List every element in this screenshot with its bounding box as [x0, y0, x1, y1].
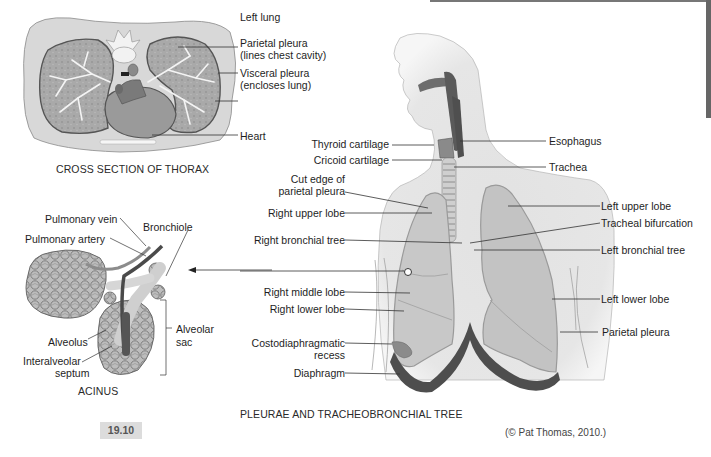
label-right-bronchial-tree: Right bronchial tree [254, 234, 345, 246]
label-right-middle-lobe: Right middle lobe [264, 286, 345, 298]
label-parietal-pleura: Parietal pleura [240, 37, 308, 49]
label-diaphragm: Diaphragm [294, 367, 345, 379]
label-heart: Heart [240, 130, 266, 142]
label-tracheal-bifurcation: Tracheal bifurcation [601, 217, 693, 229]
copyright-notice: (© Pat Thomas, 2010.) [505, 427, 606, 438]
label-right-upper-lobe: Right upper lobe [268, 207, 345, 219]
label-left-lung: Left lung [240, 11, 280, 23]
label-right-lower-lobe: Right lower lobe [270, 303, 345, 315]
caption-cross-section: CROSS SECTION OF THORAX [56, 163, 209, 175]
caption-acinus: ACINUS [78, 385, 118, 397]
label-interalveolar: Interalveolar [23, 355, 81, 367]
label-visceral-pleura-note: (encloses lung) [240, 79, 311, 91]
label-left-lower-lobe: Left lower lobe [601, 293, 669, 305]
thorax-cross-section [24, 18, 238, 152]
label-alveolus: Alveolus [48, 336, 88, 348]
label-alveolar-sac: sac [176, 336, 192, 348]
label-cricoid-cartilage: Cricoid cartilage [314, 154, 389, 166]
label-alveolar: Alveolar [176, 323, 214, 335]
label-pulmonary-vein: Pulmonary vein [45, 213, 117, 225]
label-costodiaphragmatic: Costodiaphragmatic [252, 337, 345, 349]
label-bronchiole: Bronchiole [143, 221, 193, 233]
caption-tree: PLEURAE AND TRACHEOBRONCHIAL TREE [240, 408, 463, 420]
label-visceral-pleura: Visceral pleura [240, 67, 309, 79]
label-parietal-pleura-torso: Parietal pleura [602, 326, 670, 338]
label-left-upper-lobe: Left upper lobe [601, 200, 671, 212]
label-parietal-pleura-note: (lines chest cavity) [240, 49, 326, 61]
label-pulmonary-artery: Pulmonary artery [25, 233, 105, 245]
label-cut-edge-parietal: parietal pleura [278, 185, 345, 197]
label-thyroid-cartilage: Thyroid cartilage [311, 138, 389, 150]
label-interalveolar-septum: septum [55, 367, 89, 379]
label-left-bronchial-tree: Left bronchial tree [601, 244, 685, 256]
label-esophagus: Esophagus [549, 135, 602, 147]
label-cut-edge: Cut edge of [291, 173, 345, 185]
label-trachea: Trachea [549, 161, 587, 173]
label-costodiaphragmatic-recess: recess [314, 349, 345, 361]
anatomy-figure: Left lung Parietal pleura (lines chest c… [0, 0, 711, 457]
figure-number-badge: 19.10 [100, 422, 142, 439]
